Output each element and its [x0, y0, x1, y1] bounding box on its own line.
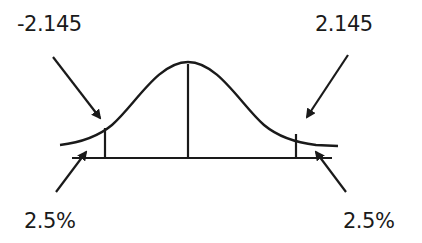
right-tail-percent-label: 2.5% [343, 211, 394, 232]
right-critical-arrow [307, 55, 348, 117]
right-critical-value-label: 2.145 [315, 14, 373, 35]
distribution-curve [60, 62, 338, 146]
left-tail-percent-label: 2.5% [24, 211, 75, 232]
left-critical-arrow [53, 57, 100, 118]
left-tail-arrow [56, 152, 86, 192]
left-critical-value-label: -2.145 [17, 14, 82, 35]
diagram-graphics [0, 0, 422, 243]
t-distribution-diagram: -2.145 2.145 2.5% 2.5% [0, 0, 422, 243]
